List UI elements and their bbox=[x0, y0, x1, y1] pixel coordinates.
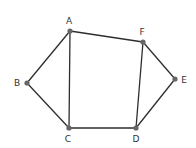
vertex-f bbox=[140, 39, 145, 44]
vertex-b bbox=[24, 80, 29, 85]
vertex-d bbox=[133, 125, 138, 130]
vertex-label-b: B bbox=[14, 79, 20, 88]
edges-group bbox=[27, 31, 175, 128]
edge-b-c bbox=[27, 83, 69, 128]
vertex-label-e: E bbox=[181, 76, 187, 85]
edge-f-e bbox=[143, 42, 175, 79]
vertex-label-f: F bbox=[139, 28, 144, 37]
edge-e-d bbox=[136, 79, 175, 128]
vertex-label-c: C bbox=[65, 135, 71, 144]
vertex-a bbox=[67, 28, 72, 33]
vertices-group bbox=[24, 28, 177, 130]
edge-a-b bbox=[27, 31, 70, 83]
vertex-label-a: A bbox=[66, 17, 72, 26]
vertex-e bbox=[172, 76, 177, 81]
edge-a-c bbox=[69, 31, 70, 128]
edge-f-d bbox=[136, 42, 143, 128]
vertex-label-d: D bbox=[133, 135, 140, 144]
graph-diagram bbox=[0, 0, 196, 148]
vertex-c bbox=[66, 125, 71, 130]
edge-a-f bbox=[70, 31, 143, 42]
